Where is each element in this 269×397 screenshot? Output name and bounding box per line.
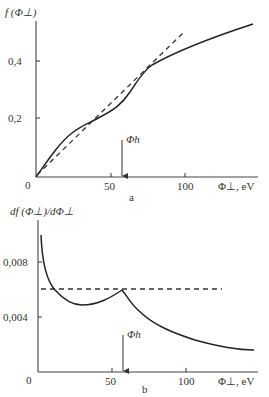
chart-b-ytick-label: 0,008 — [3, 256, 28, 268]
chart-b-caption: b — [142, 383, 148, 395]
chart-b-ytick-label: 0,004 — [3, 311, 28, 323]
chart-a-xlabel: Φ⊥, eV — [218, 180, 254, 192]
chart-a-solid-curve — [36, 24, 253, 177]
chart-a-caption: a — [129, 191, 134, 203]
chart-a-xtick-label: 100 — [177, 180, 194, 192]
chart-a-ytick-label: 0,4 — [8, 55, 22, 67]
chart-b: df (Φ⊥)/dΦ⊥ 0,008 0,004 0 50 100 Φ⊥, eV … — [3, 205, 258, 395]
chart-b-solid-curve — [41, 235, 254, 350]
chart-a-dashed-line — [37, 33, 183, 175]
figure: f (Φ⊥) 0,4 0,2 0 50 100 Φ⊥, eV Φh a df (… — [0, 0, 269, 397]
chart-a-ytick-label: 0,2 — [8, 112, 22, 124]
chart-a: f (Φ⊥) 0,4 0,2 0 50 100 Φ⊥, eV Φh a — [5, 6, 258, 203]
chart-a-xtick-label: 50 — [104, 180, 116, 192]
chart-b-ylabel: df (Φ⊥)/dΦ⊥ — [10, 205, 74, 218]
chart-b-phi-h-label: Φh — [127, 328, 141, 340]
chart-b-origin-label: 0 — [26, 374, 32, 386]
chart-b-xtick-label: 50 — [105, 375, 117, 387]
chart-a-origin-label: 0 — [25, 179, 31, 191]
chart-b-xtick-label: 100 — [178, 375, 195, 387]
chart-a-ylabel: f (Φ⊥) — [5, 6, 37, 19]
chart-b-xlabel: Φ⊥, eV — [218, 375, 254, 387]
chart-a-phi-h-label: Φh — [126, 133, 140, 145]
